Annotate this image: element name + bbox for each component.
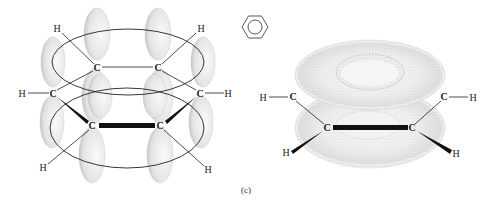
figure-caption: (c) xyxy=(241,185,251,195)
carbon-atom: C xyxy=(440,91,447,102)
carbon-atom: C xyxy=(196,88,203,99)
carbon-atom: C xyxy=(323,122,330,133)
benzene-orbital-figure: C C C C C C H H H H H H xyxy=(0,0,494,207)
carbon-atom: C xyxy=(88,120,95,131)
benzene-ring-icon xyxy=(242,16,268,38)
hydrogen-atom: H xyxy=(53,23,60,34)
right-pi-cloud-diagram: C C C C H H H H xyxy=(259,40,476,168)
hydrogen-atom: H xyxy=(224,88,231,99)
hydrogen-atom: H xyxy=(18,88,25,99)
hydrogen-atom: H xyxy=(452,148,459,159)
bold-front-bond xyxy=(99,123,155,128)
carbon-atom: C xyxy=(289,91,296,102)
carbon-atom: C xyxy=(154,62,161,73)
left-carbon-labels: C C C C C C xyxy=(49,62,203,131)
upper-pi-ring-ellipse xyxy=(52,29,204,95)
p-orbital-lobes-lower xyxy=(40,74,213,183)
hydrogen-atom: H xyxy=(259,92,266,103)
hydrogen-atom: H xyxy=(469,92,476,103)
hydrogen-atom: H xyxy=(282,147,289,158)
left-p-orbital-diagram: C C C C C C H H H H H H xyxy=(18,8,231,183)
hydrogen-atom: H xyxy=(39,162,46,173)
carbon-atom: C xyxy=(156,120,163,131)
bold-front-bond-right xyxy=(333,125,408,130)
carbon-atom: C xyxy=(408,122,415,133)
hydrogen-atom: H xyxy=(204,164,211,175)
carbon-atom: C xyxy=(93,62,100,73)
carbon-atom: C xyxy=(49,88,56,99)
hydrogen-atom: H xyxy=(197,23,204,34)
